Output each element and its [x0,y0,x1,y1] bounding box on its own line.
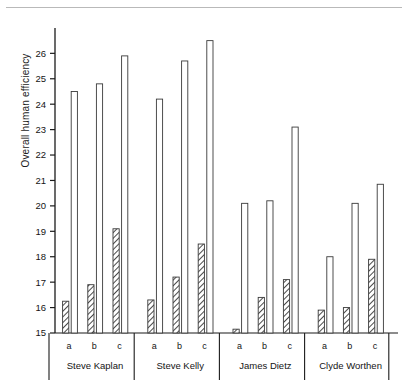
bar-open [182,61,188,333]
y-axis-tick-label: 26 [35,48,46,59]
y-axis-tick-label: 25 [35,73,46,84]
subcategory-label: a [152,341,157,351]
y-axis-tick-label: 17 [35,277,46,288]
y-axis-tick-label: 19 [35,226,46,237]
y-axis-tick-label: 22 [35,149,46,160]
bar-open [207,41,213,333]
bar-hatched [148,300,154,333]
subcategory-label: a [66,341,71,351]
y-axis-tick-label: 23 [35,124,46,135]
subcategory-label: a [322,341,327,351]
category-label-layer: abcSteve KaplanabcSteve KellyabcJames Di… [49,333,389,380]
bar-open [242,203,248,333]
bar-open [156,99,162,333]
bar-open [377,184,383,333]
subcategory-label: b [177,341,182,351]
subcategory-label: b [92,341,97,351]
chart-svg: 151617181920212223242526 abcSteve Kaplan… [0,0,408,387]
bar-open [267,201,273,333]
bar-open [122,56,128,333]
bar-hatched [88,285,94,333]
y-axis-tick-label: 20 [35,200,46,211]
bar-hatched [318,310,324,333]
subcategory-label: c [202,341,207,351]
bar-hatched [173,277,179,333]
y-axis-tick-label: 24 [35,99,46,110]
bar-hatched [113,229,119,333]
y-axis-tick-label: 21 [35,175,46,186]
bar-open [96,84,102,333]
subcategory-label: c [117,341,122,351]
bar-open [71,91,77,333]
bar-open [352,203,358,333]
bar-hatched [369,259,375,333]
subcategory-label: b [262,341,267,351]
y-axis-tick-label: 18 [35,251,46,262]
y-axis-tick-label: 16 [35,302,46,313]
group-label: Steve Kaplan [67,360,124,371]
subcategory-label: c [373,341,378,351]
bar-hatched [283,280,289,333]
bar-hatched [233,329,239,333]
bar-hatched [258,297,264,333]
bars-layer [63,41,384,333]
group-label: James Dietz [239,360,292,371]
bar-hatched [198,244,204,333]
subcategory-label: c [288,341,293,351]
group-label: Steve Kelly [156,360,204,371]
group-label: Clyde Worthen [319,360,382,371]
subcategory-label: a [237,341,242,351]
bar-hatched [343,308,349,333]
bar-open [292,127,298,333]
y-axis-tick-label: 15 [35,327,46,338]
bar-chart-figure: Overall human efficiency 151617181920212… [0,0,408,387]
subcategory-label: b [347,341,352,351]
bar-hatched [63,301,69,333]
bar-open [327,257,333,333]
